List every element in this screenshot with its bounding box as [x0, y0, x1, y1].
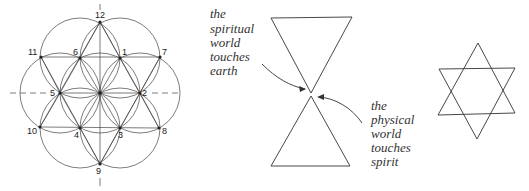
diagram-canvas: 123456789101112 the spiritual world touc… [0, 0, 529, 191]
arrow-left-head-icon [299, 86, 306, 92]
hexagram-figure [438, 43, 515, 139]
point-marker-5 [58, 91, 61, 94]
point-label-3: 3 [118, 130, 123, 140]
point-label-12: 12 [95, 10, 105, 20]
hourglass-figure: the spiritual world touches earth the ph… [210, 6, 418, 169]
point-marker-6 [78, 56, 81, 59]
spiritual-triangle [271, 17, 352, 93]
point-label-6: 6 [73, 47, 78, 57]
point-label-7: 7 [162, 47, 167, 57]
point-label-9: 9 [96, 166, 101, 176]
downward-triangle [439, 68, 515, 139]
point-label-1: 1 [122, 47, 127, 57]
point-marker-10 [38, 125, 41, 128]
point-marker-11 [39, 55, 42, 58]
caption-left: the spiritual world touches earth [210, 6, 257, 78]
center-point-marker [98, 91, 102, 95]
arrow-left-curve [262, 64, 305, 89]
flower-of-life-figure: 123456789101112 [10, 4, 182, 186]
point-label-11: 11 [28, 47, 37, 57]
point-label-5: 5 [50, 88, 55, 98]
point-label-10: 10 [27, 126, 37, 136]
arrow-right-curve [319, 97, 362, 123]
point-marker-12 [98, 20, 101, 23]
upward-triangle [438, 43, 515, 115]
caption-right: the physical world touches spirit [370, 98, 418, 169]
point-label-2: 2 [142, 88, 147, 98]
point-label-4: 4 [74, 130, 79, 140]
physical-triangle [271, 96, 350, 166]
point-label-8: 8 [162, 126, 167, 136]
arrow-right-head-icon [317, 94, 324, 100]
point-marker-8 [157, 126, 160, 129]
